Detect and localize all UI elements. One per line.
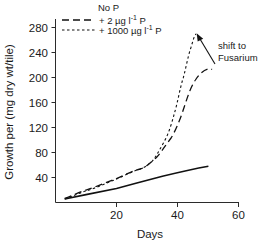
x-tick-label-60: 60 xyxy=(232,209,245,221)
legend-label-no-p: No P xyxy=(98,2,119,13)
x-axis-title: Days xyxy=(137,228,163,240)
y-tick-label-160: 160 xyxy=(29,97,48,109)
legend: No P + 2 µg l-1 P + 1000 µg l-1 P xyxy=(62,2,162,36)
y-tick-label-80: 80 xyxy=(35,147,48,159)
legend-entry-1000ug-p[interactable]: + 1000 µg l-1 P xyxy=(62,24,162,36)
annotation-line-1: shift to xyxy=(218,40,246,51)
axes xyxy=(56,19,240,203)
legend-label-1000ug-p-tail: P xyxy=(153,25,162,36)
x-tick-label-40: 40 xyxy=(171,209,184,221)
series-no-p xyxy=(65,166,209,199)
legend-entry-no-p[interactable]: No P xyxy=(98,2,119,13)
y-tick-label-240: 240 xyxy=(29,47,48,59)
annotation-line-2: Fusarium xyxy=(218,52,258,63)
legend-label-1000ug-p-main: + 1000 µg l xyxy=(99,25,146,36)
legend-label-1000ug-p: + 1000 µg l-1 P xyxy=(99,24,162,36)
y-tick-label-40: 40 xyxy=(35,172,48,184)
annotation-arrow-head xyxy=(197,33,204,41)
series-group xyxy=(65,34,212,199)
chart-figure: 280 240 200 160 120 80 40 20 40 60 Days … xyxy=(0,0,268,243)
y-axis-title: Growth per (mg dry wt/tile) xyxy=(3,44,15,180)
x-ticks xyxy=(117,203,239,208)
x-tick-labels: 20 40 60 xyxy=(110,209,245,221)
y-tick-label-280: 280 xyxy=(29,22,48,34)
growth-line-chart: 280 240 200 160 120 80 40 20 40 60 Days … xyxy=(0,0,268,243)
y-tick-label-120: 120 xyxy=(29,122,48,134)
series-2ug-p xyxy=(65,69,212,199)
y-tick-labels: 280 240 200 160 120 80 40 xyxy=(29,22,48,184)
annotation-shift-to-fusarium: shift to Fusarium xyxy=(197,33,258,64)
annotation-arrow-line xyxy=(199,37,216,65)
x-tick-label-20: 20 xyxy=(110,209,123,221)
y-ticks xyxy=(52,28,56,178)
y-tick-label-200: 200 xyxy=(29,72,48,84)
series-1000ug-p xyxy=(65,34,196,199)
